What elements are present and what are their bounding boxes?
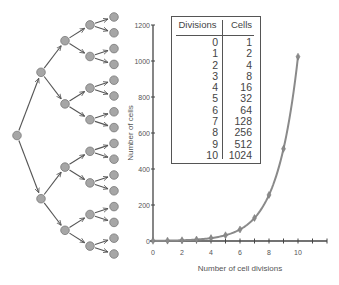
division-arrow (95, 51, 108, 55)
cell-node (37, 68, 46, 77)
division-arrow (95, 90, 108, 94)
x-tick-label: 0 (151, 249, 155, 256)
division-arrow (95, 27, 108, 31)
x-tick-label: 8 (267, 249, 271, 256)
cell-node (86, 179, 95, 188)
division-arrow (69, 107, 84, 117)
table-body: 01122438416532664712882569512101024 (172, 37, 260, 161)
divisions-value: 7 (172, 116, 218, 127)
divisions-value: 8 (172, 127, 218, 138)
cell-node (110, 202, 119, 211)
cell-node (86, 242, 95, 251)
division-arrow (95, 248, 108, 252)
cell-node (110, 60, 119, 69)
cell-node (110, 108, 119, 117)
table-row: 8256 (172, 127, 260, 138)
cell-node (61, 36, 70, 45)
cells-value: 1 (218, 37, 260, 48)
cell-node (110, 171, 119, 180)
cell-node (110, 92, 119, 101)
cells-value: 4 (218, 60, 260, 71)
cells-value: 16 (218, 82, 260, 93)
division-arrow (69, 233, 84, 243)
cell-node (110, 123, 119, 132)
cells-value: 32 (218, 93, 260, 104)
cells-value: 256 (218, 127, 260, 138)
y-tick-label: 1000 (134, 58, 150, 65)
division-arrow (95, 19, 108, 23)
division-arrow (95, 58, 108, 62)
cell-node (86, 84, 95, 93)
y-tick-label: 400 (138, 166, 150, 173)
cell-node (86, 52, 95, 61)
table-header: Divisions Cells (172, 17, 260, 33)
cell-node (86, 210, 95, 219)
division-arrow (44, 203, 61, 225)
cell-node (110, 187, 119, 196)
divisions-cells-table: Divisions Cells 011224384165326647128825… (171, 16, 261, 164)
division-arrow (95, 121, 108, 125)
division-arrow (69, 91, 84, 101)
division-arrow (69, 28, 84, 38)
cell-division-figure: 020040060080010001200 0246810 Number of … (0, 0, 339, 285)
divisions-value: 2 (172, 60, 218, 71)
cell-node (13, 131, 22, 140)
division-arrow (44, 172, 61, 194)
cell-node (110, 250, 119, 259)
division-arrow (19, 140, 39, 192)
divisions-value: 10 (172, 150, 218, 161)
x-tick-label: 4 (209, 249, 213, 256)
divisions-value: 1 (172, 48, 218, 59)
division-arrow (95, 185, 108, 189)
cell-node (37, 194, 46, 203)
division-arrow (95, 216, 108, 220)
data-point-marker (224, 232, 228, 239)
x-tick-label: 6 (238, 249, 242, 256)
cell-node (110, 13, 119, 22)
cell-node (110, 76, 119, 85)
x-tick-label: 10 (294, 249, 302, 256)
y-ticks: 020040060080010001200 (134, 22, 155, 245)
data-point-marker (195, 236, 199, 243)
cell-node (110, 234, 119, 243)
table-row: 12 (172, 48, 260, 59)
y-tick-label: 1200 (134, 22, 150, 29)
data-point-marker (238, 226, 242, 233)
division-arrow (95, 209, 108, 213)
cell-node (110, 155, 119, 164)
header-divisions: Divisions (172, 17, 223, 33)
division-arrow (95, 240, 108, 244)
x-axis-title: Number of cell divisions (198, 264, 282, 273)
cell-node (86, 147, 95, 156)
data-point-marker (151, 237, 155, 244)
division-arrow (95, 153, 108, 157)
divisions-value: 0 (172, 37, 218, 48)
data-point-marker (296, 53, 300, 60)
x-tick-label: 2 (180, 249, 184, 256)
y-tick-label: 0 (146, 238, 150, 245)
y-tick-label: 200 (138, 202, 150, 209)
division-arrow (19, 78, 39, 130)
y-tick-label: 800 (138, 94, 150, 101)
divisions-value: 4 (172, 82, 218, 93)
division-arrow (95, 177, 108, 181)
cells-value: 8 (218, 71, 260, 82)
cell-node (86, 115, 95, 124)
divisions-value: 3 (172, 71, 218, 82)
cell-node (61, 100, 70, 109)
data-point-marker (166, 237, 170, 244)
division-arrow (69, 155, 84, 165)
division-arrow (44, 46, 61, 68)
cells-value: 2 (218, 48, 260, 59)
cell-node (110, 44, 119, 53)
cells-value: 1024 (218, 150, 260, 161)
cell-node (61, 226, 70, 235)
header-cells: Cells (223, 17, 260, 33)
cell-node (61, 163, 70, 172)
y-tick-label: 600 (138, 130, 150, 137)
cell-node (86, 21, 95, 30)
divisions-value: 6 (172, 105, 218, 116)
cell-node (110, 29, 119, 38)
division-arrow (69, 218, 84, 228)
data-point-marker (180, 237, 184, 244)
